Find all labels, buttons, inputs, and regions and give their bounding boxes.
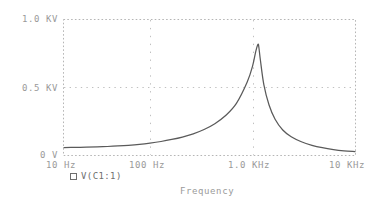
frequency-response-plot: 1.0 KV 0.5 KV 0 V 10 Hz 100 Hz 1.0 KHz 1… [0,0,390,201]
plot-canvas [0,0,390,201]
data-trace-vc11 [64,44,355,152]
